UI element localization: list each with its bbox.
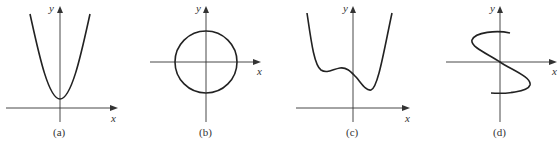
- y-axis-label: y: [342, 2, 348, 14]
- quartic-curve: [307, 13, 392, 90]
- y-axis-label: y: [489, 2, 495, 14]
- x-axis-label: x: [256, 65, 262, 77]
- x-axis-label: x: [404, 112, 410, 124]
- y-axis-arrow-icon: [350, 6, 356, 13]
- y-axis-arrow-icon: [57, 6, 63, 13]
- y-axis-arrow-icon: [203, 6, 209, 13]
- caption-c: (c): [346, 126, 359, 139]
- panel-c: x y (c): [296, 2, 410, 139]
- y-axis-label: y: [48, 2, 54, 14]
- x-axis-label: x: [551, 65, 557, 77]
- graphs-figure: x y (a) x y (b) x y (c) x y (d): [0, 0, 559, 145]
- x-axis-arrow-icon: [402, 105, 410, 111]
- caption-d: (d): [493, 126, 506, 139]
- panel-d: x y (d): [446, 2, 557, 139]
- s-curve: [472, 32, 530, 94]
- y-axis-label: y: [195, 2, 201, 14]
- panel-a: x y (a): [6, 2, 118, 139]
- x-axis-arrow-icon: [110, 105, 118, 111]
- y-axis-arrow-icon: [497, 6, 503, 13]
- x-axis-label: x: [110, 112, 116, 124]
- caption-b: (b): [199, 126, 212, 139]
- caption-a: (a): [53, 126, 66, 139]
- panel-b: x y (b): [150, 2, 262, 139]
